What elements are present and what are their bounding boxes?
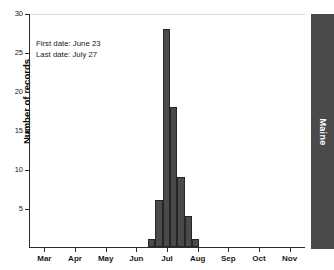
x-tick-label-mar: Mar [37,254,51,263]
x-tick-label-may: May [98,254,114,263]
plot-top-border [29,14,305,15]
x-tick-label-sep: Sep [221,254,236,263]
x-tick-label-apr: Apr [68,254,82,263]
x-tick-apr [75,248,76,252]
y-tick-5: 5 [25,209,29,210]
bar [148,239,155,247]
bar [185,216,192,247]
x-tick-label-oct: Oct [252,254,265,263]
histogram-figure: Number of records 51015202530 MarAprMayJ… [0,0,334,270]
region-band-label: Maine [318,118,328,145]
x-tick-may [106,248,107,252]
x-tick-label-aug: Aug [190,254,206,263]
bar [177,177,184,247]
y-axis-line [29,14,30,248]
y-tick-label-30: 30 [15,9,23,18]
y-tick-30: 30 [25,14,29,15]
y-tick-label-5: 5 [19,204,23,213]
y-tick-label-10: 10 [15,165,23,174]
x-tick-label-jul: Jul [161,254,173,263]
bar [163,29,170,247]
x-tick-oct [259,248,260,252]
x-tick-sep [228,248,229,252]
y-tick-25: 25 [25,53,29,54]
x-tick-jul [167,248,168,252]
y-tick-20: 20 [25,92,29,93]
y-tick-label-20: 20 [15,87,23,96]
x-tick-nov [290,248,291,252]
annotation-first-date: First date: June 23 [36,38,101,49]
bar [170,107,177,247]
y-tick-10: 10 [25,170,29,171]
x-tick-label-nov: Nov [282,254,297,263]
annotation-text-block: First date: June 23 Last date: July 27 [36,38,101,60]
y-tick-label-15: 15 [15,126,23,135]
x-tick-mar [44,248,45,252]
annotation-last-date: Last date: July 27 [36,49,101,60]
y-tick-label-25: 25 [15,48,23,57]
x-tick-label-jun: Jun [129,254,143,263]
bar [155,200,162,247]
x-tick-jun [136,248,137,252]
x-tick-aug [198,248,199,252]
y-tick-15: 15 [25,131,29,132]
bar [192,239,199,247]
region-band: Maine [311,14,334,249]
